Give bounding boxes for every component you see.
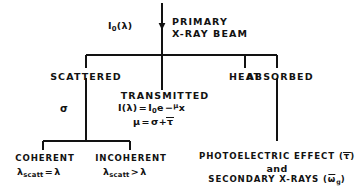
- primary-beam-title-line1: PRIMARY: [172, 17, 228, 27]
- coherent-wavelength-equation: λscatt = λ: [17, 167, 61, 179]
- scattering-coefficient-symbol: σ: [60, 104, 68, 115]
- primary-beam-title-line2: X-RAY BEAM: [172, 29, 248, 39]
- attenuation-coefficient-equation: μ = σ+τ: [133, 117, 173, 127]
- node-coherent: COHERENT: [15, 154, 74, 163]
- beam-intensity-label: I0(λ): [108, 21, 132, 33]
- node-photoelectric-effect: PHOTOELECTRIC EFFECT (τ): [199, 152, 355, 161]
- omega-bar-icon: ω: [328, 175, 336, 184]
- tau-symbol: τ: [167, 117, 173, 127]
- beam-direction-arrow: [159, 23, 166, 30]
- node-scattered: SCATTERED: [50, 72, 122, 82]
- node-absorbed: ABSORBED: [246, 72, 313, 82]
- node-secondary-xrays: SECONDARY X-RAYS (ωg): [208, 175, 345, 185]
- conjunction-and: and: [266, 164, 287, 174]
- photoelectric-tau-icon: τ: [344, 152, 350, 161]
- transmitted-intensity-equation: I(λ) = I0e −μx: [118, 102, 185, 115]
- node-incoherent: INCOHERENT: [95, 154, 167, 163]
- incoherent-wavelength-equation: λscatt > λ: [103, 167, 147, 179]
- xray-interaction-diagram: I0(λ) PRIMARY X-RAY BEAM SCATTERED HEAT …: [0, 0, 360, 190]
- node-transmitted: TRANSMITTED: [121, 91, 210, 101]
